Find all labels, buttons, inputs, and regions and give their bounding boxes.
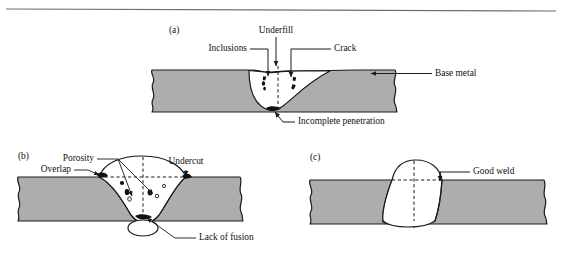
panel-a-incomplete-penetration-label: Incomplete penetration [298, 116, 385, 126]
panel-b-lack-of-fusion-label: Lack of fusion [199, 232, 254, 242]
panel-a-crack-label: Crack [334, 43, 357, 53]
panel-a-underfill-label: Underfill [259, 25, 294, 35]
panel-a-base-metal-label: Base metal [435, 68, 477, 78]
weld-defects-figure: (a) Underfill Inclusions Crack Base meta… [0, 0, 564, 256]
panel-a-crack-leader [291, 49, 331, 64]
panel-a-incomplete-penetration-leader [275, 112, 295, 122]
panel-a-label: (a) [169, 25, 179, 36]
figure-canvas: (a) Underfill Inclusions Crack Base meta… [0, 0, 564, 256]
panel-a: (a) Underfill Inclusions Crack Base meta… [152, 25, 477, 126]
panel-b-undercut-label: Undercut [169, 156, 204, 166]
panel-b-overlap-label: Overlap [41, 164, 72, 174]
panel-a-inclusions-label: Inclusions [208, 43, 247, 53]
panel-b-label: (b) [18, 151, 29, 162]
panel-c-good-weld-leader [440, 172, 470, 176]
panel-c-good-weld-label: Good weld [473, 166, 515, 176]
panel-c: (c) Good weld [310, 152, 547, 230]
panel-c-weld-bead [383, 160, 442, 225]
panel-c-label: (c) [310, 152, 320, 163]
panel-b: (b) Porosity Overlap Undercut Lack of fu… [18, 151, 254, 242]
top-rule [6, 9, 556, 11]
panel-b-porosity-label: Porosity [63, 153, 95, 163]
panel-b-overlap-leader [74, 170, 99, 175]
panel-c-root-reinforcement [383, 221, 435, 227]
panel-a-inclusions-leader [250, 49, 268, 64]
